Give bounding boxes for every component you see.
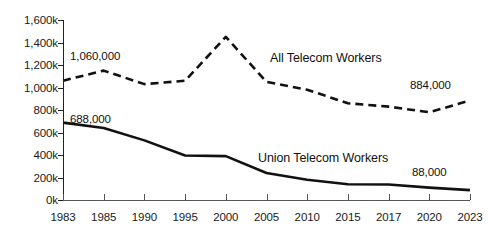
x-axis-tick-mark bbox=[104, 194, 105, 200]
x-axis-tick-label: 2023 bbox=[457, 211, 482, 223]
x-axis-tick-label: 1995 bbox=[173, 211, 198, 223]
annotation-all-end: 884,000 bbox=[410, 79, 451, 91]
x-axis-tick-mark bbox=[63, 194, 64, 200]
x-axis-tick-label: 2015 bbox=[335, 211, 360, 223]
x-axis-tick-mark bbox=[144, 194, 145, 200]
series-line-all-telecom-workers bbox=[63, 37, 470, 112]
x-axis-tick-label: 1990 bbox=[132, 211, 157, 223]
x-axis-tick-label: 1983 bbox=[50, 211, 75, 223]
x-axis-tick-mark bbox=[307, 194, 308, 200]
x-axis-tick-mark bbox=[389, 194, 390, 200]
x-axis-tick-mark bbox=[470, 194, 471, 200]
x-axis-tick-label: 2010 bbox=[295, 211, 320, 223]
x-axis-tick-mark bbox=[267, 194, 268, 200]
x-axis-tick-mark bbox=[429, 194, 430, 200]
x-axis-tick-mark bbox=[185, 194, 186, 200]
x-axis-tick-label: 2020 bbox=[417, 211, 442, 223]
annotation-union-start: 688,000 bbox=[70, 113, 111, 125]
x-axis-tick-label: 2000 bbox=[213, 211, 238, 223]
annotation-union-end: 88,000 bbox=[412, 166, 447, 178]
x-axis-tick-mark bbox=[348, 194, 349, 200]
y-axis-spine bbox=[63, 20, 64, 200]
series-label-union-telecom-workers: Union Telecom Workers bbox=[258, 151, 388, 165]
telecom-workers-line-chart: 1,600k1,400k1,200k1,000k800k600k400k200k… bbox=[0, 0, 488, 248]
annotation-all-start: 1,060,000 bbox=[70, 50, 120, 62]
x-axis-tick-label: 1985 bbox=[91, 211, 116, 223]
x-axis-tick-label: 2017 bbox=[376, 211, 401, 223]
x-axis-tick-mark bbox=[226, 194, 227, 200]
series-label-all-telecom-workers: All Telecom Workers bbox=[270, 51, 382, 65]
x-axis-spine bbox=[63, 200, 470, 201]
x-axis-tick-label: 2005 bbox=[254, 211, 279, 223]
